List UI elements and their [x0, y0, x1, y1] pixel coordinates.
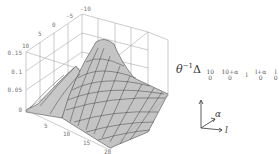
surface-plot: 0 0.05 0.1 0.15 -10 -5 0 5 10 5 10 15 20 — [0, 0, 180, 154]
formula-subscript: 100 — [206, 69, 214, 81]
formula: θ−1Δ 100 10+α0 l l+α0 l0 — [176, 62, 279, 81]
surface-mesh — [26, 39, 168, 148]
formula-subscript: l — [246, 72, 248, 78]
l-axis-label: l — [225, 125, 228, 135]
formula-subscript: l+α0 — [255, 69, 266, 81]
svg-text:0.1: 0.1 — [11, 68, 22, 75]
alpha-axis-label: α — [215, 109, 221, 119]
formula-theta: θ — [176, 63, 183, 76]
svg-text:0.15: 0.15 — [8, 49, 23, 56]
svg-text:5: 5 — [38, 30, 42, 37]
formula-subscript: 10+α0 — [222, 69, 239, 81]
svg-text:0.05: 0.05 — [8, 86, 23, 93]
svg-text:0: 0 — [52, 21, 56, 28]
z-axis-ticks: 0 0.05 0.1 0.15 — [8, 49, 23, 113]
formula-subscript: l0 — [274, 69, 278, 81]
svg-text:15: 15 — [83, 139, 91, 146]
svg-text:20: 20 — [104, 148, 112, 154]
formula-exponent: −1 — [183, 62, 193, 70]
svg-text:0: 0 — [18, 106, 22, 113]
svg-text:-10: -10 — [80, 5, 91, 12]
svg-text:10: 10 — [22, 42, 30, 49]
svg-text:5: 5 — [44, 122, 48, 129]
axes-indicator-icon: α l — [196, 95, 246, 140]
formula-delta: Δ — [193, 63, 201, 76]
svg-text:-5: -5 — [66, 12, 74, 19]
svg-text:10: 10 — [63, 130, 71, 137]
back-axis-ticks: -10 -5 0 5 10 — [22, 5, 91, 49]
